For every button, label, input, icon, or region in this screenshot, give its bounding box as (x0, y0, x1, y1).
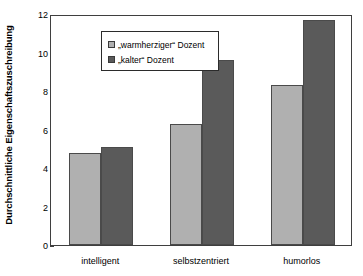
bar-humorlos-warm (271, 85, 303, 245)
legend-label-cold: „kalter“ Dozent (118, 55, 174, 65)
y-tick-label: 12 (8, 11, 48, 20)
legend-swatch-cold-icon (108, 56, 115, 63)
y-axis-title: Durchschnittliche Eigenschaftszuschreibu… (1, 0, 15, 250)
bar-intelligent-warm (69, 153, 101, 245)
legend-label-warm: „warmherziger“ Dozent (118, 40, 204, 50)
y-tick-label: 8 (8, 88, 48, 97)
y-tick-label: 4 (8, 165, 48, 174)
y-tick-label: 6 (8, 126, 48, 135)
bar-selbstzentriert-cold (202, 60, 234, 245)
y-tick-mark (50, 246, 54, 247)
chart-figure: Durchschnittliche Eigenschaftszuschreibu… (0, 0, 363, 276)
plot-area: „warmherziger“ Dozent „kalter“ Dozent (50, 15, 352, 246)
x-tick-label: selbstzentriert (173, 256, 229, 266)
x-tick-label: humorlos (283, 256, 320, 266)
bar-humorlos-cold (303, 20, 335, 245)
legend-item-warm: „warmherziger“ Dozent (108, 37, 218, 52)
chart-legend: „warmherziger“ Dozent „kalter“ Dozent (101, 31, 219, 71)
y-tick-label: 2 (8, 203, 48, 212)
legend-swatch-warm-icon (108, 41, 115, 48)
y-tick-label: 10 (8, 49, 48, 58)
legend-item-cold: „kalter“ Dozent (108, 52, 218, 67)
y-tick-label: 0 (8, 242, 48, 251)
x-tick-label: intelligent (81, 256, 119, 266)
bar-selbstzentriert-warm (170, 124, 202, 245)
bar-intelligent-cold (101, 147, 133, 245)
